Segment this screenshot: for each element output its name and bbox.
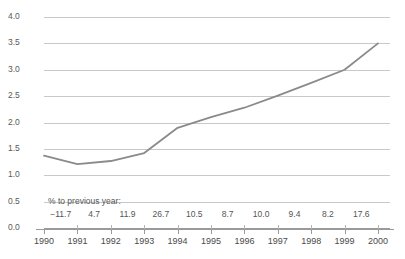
x-axis-tick-mark xyxy=(211,230,212,234)
y-axis-tick-label: 4.0 xyxy=(8,11,46,21)
x-axis-tick-mark xyxy=(77,230,78,234)
y-axis-tick-label: 0.0 xyxy=(8,222,46,232)
x-axis-tick-label: 1992 xyxy=(93,236,129,246)
x-axis-line xyxy=(36,229,394,230)
annotation-block: % to previous year: −11.74.711.926.710.5… xyxy=(44,196,390,228)
annotation-tick xyxy=(77,225,78,229)
y-axis-tick-label: 1.5 xyxy=(8,143,46,153)
annotation-tick xyxy=(178,225,179,229)
annotation-tick xyxy=(111,225,112,229)
annotation-tick xyxy=(211,225,212,229)
x-axis-tick-label: 1995 xyxy=(193,236,229,246)
y-axis-tick-label: 0.5 xyxy=(8,196,46,206)
y-axis-tick-label: 2.0 xyxy=(8,117,46,127)
annotation-tick xyxy=(378,225,379,229)
x-axis-tick-label: 2000 xyxy=(360,236,396,246)
annotation-tick xyxy=(144,225,145,229)
x-axis-tick-label: 1994 xyxy=(160,236,196,246)
series-polyline xyxy=(44,43,378,164)
annotation-tick xyxy=(345,225,346,229)
x-axis-tick-mark xyxy=(144,230,145,234)
annotation-value: 17.6 xyxy=(341,209,381,219)
y-axis-tick-label: 3.5 xyxy=(8,37,46,47)
x-axis-tick-label: 1999 xyxy=(327,236,363,246)
x-axis-tick-mark xyxy=(111,230,112,234)
x-axis-tick-label: 1997 xyxy=(260,236,296,246)
annotation-tick xyxy=(311,225,312,229)
x-axis-tick-mark xyxy=(178,230,179,234)
x-axis-tick-label: 1990 xyxy=(26,236,62,246)
x-axis-tick-label: 1996 xyxy=(226,236,262,246)
x-axis-tick-label: 1993 xyxy=(126,236,162,246)
y-axis-tick-label: 2.5 xyxy=(8,90,46,100)
line-chart: 0.00.51.01.52.02.53.03.54.0 % to previou… xyxy=(0,0,405,259)
y-axis-tick-label: 1.0 xyxy=(8,169,46,179)
x-axis-tick-label: 1991 xyxy=(59,236,95,246)
x-axis-tick-mark xyxy=(244,230,245,234)
x-axis-tick-mark xyxy=(278,230,279,234)
x-axis-tick-mark xyxy=(345,230,346,234)
annotation-tick xyxy=(244,225,245,229)
y-axis-tick-label: 3.0 xyxy=(8,64,46,74)
x-axis-tick-label: 1998 xyxy=(293,236,329,246)
chart-title xyxy=(0,0,405,3)
x-axis-tick-mark xyxy=(44,230,45,234)
annotation-label: % to previous year: xyxy=(48,196,121,206)
x-axis-tick-mark xyxy=(311,230,312,234)
annotation-tick xyxy=(278,225,279,229)
x-axis-tick-mark xyxy=(378,230,379,234)
